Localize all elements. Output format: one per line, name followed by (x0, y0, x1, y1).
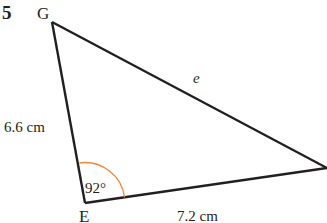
vertex-label-e: E (79, 207, 89, 223)
side-label-ef: 7.2 cm (177, 208, 218, 223)
side-label-ge: 6.6 cm (4, 119, 45, 135)
triangle-diagram: 5 G E 6.6 cm 7.2 cm e 92° (0, 0, 327, 223)
side-label-gf: e (193, 70, 200, 86)
question-number: 5 (2, 2, 12, 23)
angle-label-e: 92° (85, 180, 106, 196)
side-ge (52, 22, 85, 203)
side-gf (52, 22, 327, 168)
vertex-label-g: G (37, 4, 49, 23)
